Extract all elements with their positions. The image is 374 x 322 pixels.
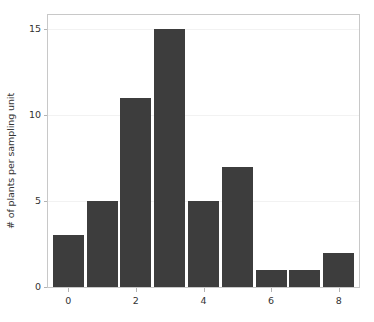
bar [222,167,253,288]
bar-chart-figure: # of plants per sampling unit 051015 024… [0,0,374,322]
bar [154,29,185,287]
x-axis-tick-mark [136,288,137,292]
y-axis-tick-label-wrap: 15 [0,24,41,34]
plot-area [48,15,359,287]
gridline [48,115,359,116]
y-axis-tick-label-wrap: 10 [0,110,41,120]
y-axis-title: # of plants per sampling unit [0,0,20,322]
y-axis-tick-label: 0 [15,282,41,292]
x-axis-tick-mark [68,288,69,292]
bar [53,235,84,287]
x-axis-tick-label: 4 [189,295,219,307]
x-axis-tick-label: 2 [121,295,151,307]
bar [87,201,118,287]
y-axis-tick-label: 10 [15,110,41,120]
x-axis-tick-mark [339,288,340,292]
bar [120,98,151,287]
x-axis-tick-mark [271,288,272,292]
bar [323,253,354,287]
y-axis-tick-label: 15 [15,24,41,34]
x-axis-tick-label: 8 [324,295,354,307]
y-axis-tick-label-wrap: 0 [0,282,41,292]
bar [256,270,287,287]
x-axis-tick-label: 6 [256,295,286,307]
x-axis-tick-label: 0 [53,295,83,307]
y-axis-tick-label: 5 [15,196,41,206]
bar [188,201,219,287]
x-axis-tick-mark [204,288,205,292]
y-axis-tick-label-wrap: 5 [0,196,41,206]
bar [289,270,320,287]
gridline [48,29,359,30]
